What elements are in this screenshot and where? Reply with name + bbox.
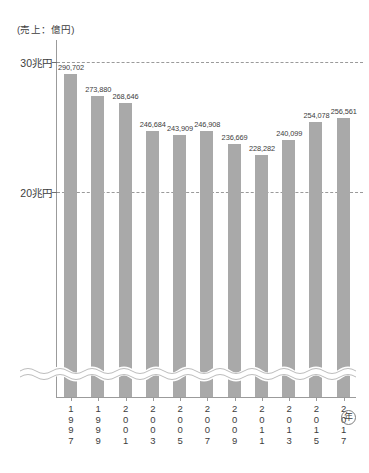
bar[interactable] [309,122,322,397]
y-axis-unit-caption: (売上：億円) [17,22,75,36]
x-tick-mark-0 [71,397,72,401]
bar-value-label: 236,669 [222,133,248,142]
bar[interactable] [64,74,77,397]
x-tick-mark-8 [289,397,290,401]
x-tick-mark-6 [235,397,236,401]
x-tick-mark-3 [153,397,154,401]
x-tick-mark-5 [207,397,208,401]
bar[interactable] [228,144,241,397]
bar[interactable] [255,155,268,397]
bar-value-label: 290,702 [58,63,84,72]
x-tick-mark-1 [98,397,99,401]
bar-value-label: 228,282 [249,144,275,153]
x-tick-mark-7 [262,397,263,401]
x-axis-label-2007: 2007 [194,404,220,446]
bar-value-label: 254,078 [303,111,329,120]
bar-value-label: 243,909 [167,124,193,133]
bar[interactable] [282,140,295,397]
bar[interactable] [119,103,132,397]
x-axis-line [56,397,356,398]
x-tick-mark-4 [180,397,181,401]
x-axis-label-2009: 2009 [222,404,248,446]
bar-value-label: 246,684 [140,120,166,129]
bar[interactable] [200,131,213,397]
bar-value-label: 268,646 [113,92,139,101]
x-tick-mark-10 [344,397,345,401]
bar[interactable] [337,118,350,397]
x-axis-label-2011: 2011 [249,404,275,446]
x-tick-mark-9 [316,397,317,401]
plot-area: 290,702273,880268,646246,684243,909246,9… [57,40,357,397]
x-axis-label-2001: 2001 [113,404,139,446]
bar-value-label: 256,561 [331,107,357,116]
x-axis-unit-label: 年 [341,410,356,425]
x-axis-label-2003: 2003 [140,404,166,446]
y-tick-label-0: 30兆円 [6,55,52,70]
bar[interactable] [91,96,104,397]
bar-value-label: 246,908 [194,120,220,129]
y-tick-label-1: 20兆円 [6,185,52,200]
bar[interactable] [173,135,186,397]
bar-value-label: 273,880 [85,85,111,94]
x-tick-mark-2 [126,397,127,401]
x-axis-label-2005: 2005 [167,404,193,446]
bar-value-label: 240,099 [276,129,302,138]
x-axis-label-2013: 2013 [276,404,302,446]
bar[interactable] [146,131,159,397]
x-axis-label-1997: 1997 [58,404,84,446]
x-axis-label-2015: 2015 [303,404,329,446]
sales-bar-chart: (売上：億円) 30兆円20兆円 290,702273,880268,64624… [0,0,369,473]
x-axis-label-1999: 1999 [85,404,111,446]
